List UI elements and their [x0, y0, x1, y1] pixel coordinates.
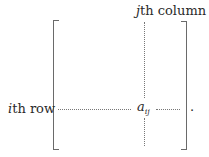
left-bracket	[53, 20, 59, 150]
period: .	[190, 99, 194, 115]
right-bracket	[181, 21, 187, 150]
column-label-text: th column	[140, 3, 206, 18]
matrix-entry: aij	[137, 99, 150, 120]
row-label-text: th row	[12, 101, 55, 116]
column-dotted-line-upper	[144, 22, 145, 98]
row-label: ith row	[8, 101, 55, 117]
column-label: jth column	[136, 3, 206, 19]
row-dotted-line-left	[58, 109, 131, 110]
row-dotted-line-right	[156, 109, 180, 110]
entry-base: a	[137, 99, 145, 114]
column-dotted-line-lower	[144, 118, 145, 146]
entry-subscript: ij	[145, 107, 150, 116]
